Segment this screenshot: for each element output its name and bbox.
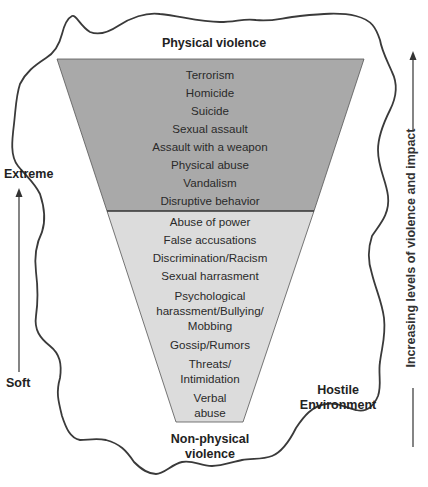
nonphysical-item-list: Abuse of power False accusations Discrim… <box>110 214 310 420</box>
nonphysical-item: Psychological <box>110 288 310 303</box>
physical-item: Terrorism <box>110 67 310 85</box>
nonphysical-item: False accusations <box>110 232 310 250</box>
hostile-label-line1: Hostile <box>290 383 386 398</box>
physical-violence-title: Physical violence <box>0 36 428 50</box>
nonphysical-item: Verbal <box>110 390 310 405</box>
right-axis-arrowhead-icon <box>410 51 417 60</box>
right-axis-label: Increasing levels of violence and impact <box>404 129 418 368</box>
physical-item: Disruptive behavior <box>110 193 310 211</box>
nonphysical-item: Threats/ <box>110 356 310 371</box>
nonphysical-item: Discrimination/Racism <box>110 250 310 268</box>
nonphysical-item: Mobbing <box>110 318 310 337</box>
physical-item: Assault with a weapon <box>110 139 310 157</box>
nonphysical-item: Sexual harrasment <box>110 268 310 288</box>
nonphysical-item: Abuse of power <box>110 214 310 232</box>
physical-item: Sexual assault <box>110 121 310 139</box>
nonphysical-violence-title: Non-physical violence <box>110 432 310 462</box>
physical-item: Suicide <box>110 103 310 121</box>
left-axis-top-label: Extreme <box>4 167 53 181</box>
hostile-environment-label: Hostile Environment <box>290 383 386 413</box>
physical-item: Physical abuse <box>110 157 310 175</box>
nonphysical-item: harassment/Bullying/ <box>110 303 310 318</box>
physical-item: Homicide <box>110 85 310 103</box>
nonphysical-item: Intimidation <box>110 371 310 390</box>
physical-item-list: Terrorism Homicide Suicide Sexual assaul… <box>110 67 310 211</box>
left-axis-arrowhead-icon <box>16 188 23 197</box>
nonphysical-item: abuse <box>110 405 310 420</box>
nonphysical-title-line2: violence <box>110 447 310 462</box>
nonphysical-item: Gossip/Rumors <box>110 337 310 356</box>
hostile-label-line2: Environment <box>290 398 386 413</box>
physical-item: Vandalism <box>110 175 310 193</box>
left-axis-bottom-label: Soft <box>6 376 30 390</box>
nonphysical-title-line1: Non-physical <box>110 432 310 447</box>
